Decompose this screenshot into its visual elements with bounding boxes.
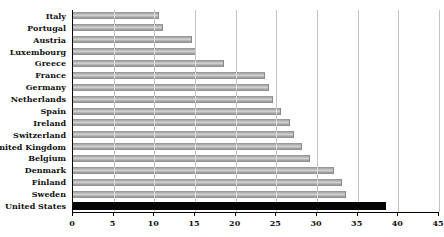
- x-axis-tick: [235, 213, 236, 216]
- category-label: Ireland: [0, 117, 69, 129]
- x-axis-tick: [397, 213, 398, 216]
- x-axis-tick: [438, 213, 439, 216]
- category-label: Switzerland: [0, 129, 69, 141]
- gridline-overlay: [195, 10, 196, 212]
- gridline-overlay: [317, 10, 318, 212]
- category-label: Greece: [0, 58, 69, 70]
- gridline-overlay: [154, 10, 155, 212]
- category-label: Belgium: [0, 153, 69, 165]
- bar: [73, 96, 273, 103]
- gridline-overlay: [236, 10, 237, 212]
- x-axis-tick-label: 15: [188, 218, 199, 228]
- category-label: Spain: [0, 105, 69, 117]
- x-axis-tick: [113, 213, 114, 216]
- x-axis-tick: [194, 213, 195, 216]
- x-axis-tick: [275, 213, 276, 216]
- category-label: Sweden: [0, 188, 69, 200]
- category-label: Italy: [0, 10, 69, 22]
- category-label: United Kingdom: [0, 141, 69, 153]
- category-axis: ItalyPortugalAustriaLuxembourgGreeceFran…: [0, 10, 69, 212]
- category-label: Germany: [0, 81, 69, 93]
- bar: [73, 12, 159, 19]
- chart-title-text: Percent of Adult Population: [161, 3, 348, 5]
- bar: [73, 167, 334, 174]
- gridline-overlay: [114, 10, 115, 212]
- bar: [73, 48, 196, 55]
- gridline-overlay: [398, 10, 399, 212]
- gridline-overlay: [439, 10, 440, 212]
- category-label: Denmark: [0, 164, 69, 176]
- x-axis-tick-label: 0: [69, 218, 75, 228]
- x-axis-tick: [153, 213, 154, 216]
- x-axis: 051015202530354045: [72, 212, 444, 237]
- bar: [73, 36, 192, 43]
- x-axis-tick: [72, 213, 73, 216]
- bar: [73, 60, 224, 67]
- gridline-overlay: [358, 10, 359, 212]
- x-axis-tick-label: 20: [229, 218, 240, 228]
- x-axis-tick-label: 45: [432, 218, 443, 228]
- category-label: Finland: [0, 176, 69, 188]
- bar-chart: Percent of Adult Population ItalyPortuga…: [0, 0, 444, 237]
- x-axis-tick-label: 10: [148, 218, 159, 228]
- category-label: United States: [0, 200, 69, 212]
- x-axis-tick-label: 25: [270, 218, 281, 228]
- bar: [73, 119, 290, 126]
- bar: [73, 24, 163, 31]
- category-label: Luxembourg: [0, 46, 69, 58]
- x-axis-tick-label: 35: [351, 218, 362, 228]
- x-axis-tick-label: 40: [392, 218, 403, 228]
- x-axis-tick-label: 30: [310, 218, 321, 228]
- bar: [73, 155, 310, 162]
- category-label: France: [0, 69, 69, 81]
- category-label: Austria: [0, 34, 69, 46]
- category-label: Netherlands: [0, 93, 69, 105]
- bar: [73, 84, 269, 91]
- category-label: Portugal: [0, 22, 69, 34]
- gridline-overlay: [276, 10, 277, 212]
- x-axis-tick: [316, 213, 317, 216]
- bar: [73, 143, 302, 150]
- bar-highlight: [73, 202, 386, 210]
- x-axis-tick-label: 5: [110, 218, 116, 228]
- plot-area: [72, 10, 439, 213]
- chart-title: Percent of Adult Population: [72, 0, 438, 5]
- x-axis-tick: [357, 213, 358, 216]
- bar: [73, 108, 281, 115]
- bar: [73, 131, 294, 138]
